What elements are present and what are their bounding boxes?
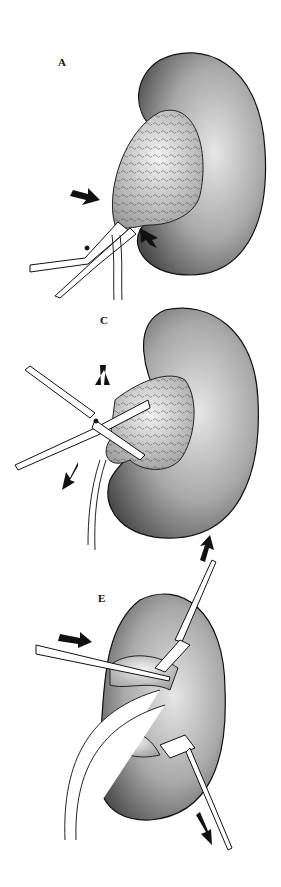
illustration-canvas: A C E bbox=[0, 0, 281, 887]
clamp-a bbox=[30, 222, 136, 298]
panel-a bbox=[30, 53, 266, 300]
ureter-c bbox=[88, 460, 106, 550]
arrow-down-left-c bbox=[62, 462, 78, 490]
arrow-left-a bbox=[70, 188, 100, 205]
panel-label-a: A bbox=[58, 56, 66, 68]
arrow-up-right-e bbox=[200, 535, 214, 562]
panel-label-e: E bbox=[98, 592, 105, 604]
arrow-up-c bbox=[95, 365, 110, 385]
panel-e bbox=[36, 535, 232, 850]
panel-label-c: C bbox=[100, 314, 108, 326]
arrow-down-right-e bbox=[196, 812, 212, 845]
arrow-right-e bbox=[58, 632, 92, 648]
panel-c bbox=[15, 308, 258, 550]
